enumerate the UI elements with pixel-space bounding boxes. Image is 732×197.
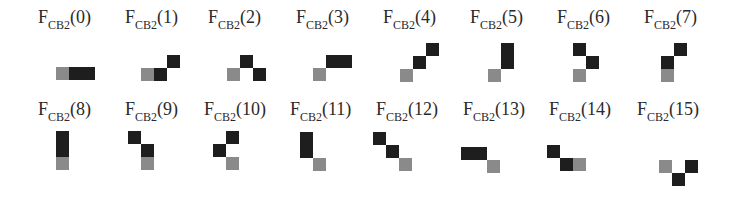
- dark-square: [300, 132, 313, 145]
- label-subscript: CB2: [300, 110, 322, 124]
- label-main: F: [557, 7, 567, 27]
- label-main: F: [383, 7, 393, 27]
- dark-square: [56, 131, 69, 144]
- dark-square: [213, 144, 226, 157]
- label-main: F: [125, 7, 135, 27]
- label-subscript: CB2: [135, 18, 157, 32]
- dark-square: [226, 131, 239, 144]
- label-argument: (1): [157, 7, 178, 27]
- label-subscript: CB2: [214, 110, 236, 124]
- label-main: F: [38, 99, 48, 119]
- figure-label: FCB2(11): [290, 100, 351, 118]
- label-subscript: CB2: [559, 110, 581, 124]
- dark-square: [674, 43, 687, 56]
- dark-square: [240, 55, 253, 68]
- figure-label: FCB2(12): [376, 100, 438, 118]
- figure-label: FCB2(9): [125, 100, 178, 118]
- label-main: F: [38, 7, 48, 27]
- label-main: F: [208, 7, 218, 27]
- label-argument: (13): [495, 99, 525, 119]
- gray-square: [141, 68, 154, 81]
- dark-square: [300, 145, 313, 158]
- gray-square: [56, 157, 69, 170]
- label-subscript: CB2: [306, 18, 328, 32]
- dark-square: [141, 144, 154, 157]
- label-subscript: CB2: [386, 110, 408, 124]
- figure-label: FCB2(8): [38, 100, 91, 118]
- dark-square: [672, 173, 685, 186]
- dark-square: [560, 158, 573, 171]
- label-main: F: [376, 99, 386, 119]
- dark-square: [501, 43, 514, 56]
- label-argument: (9): [157, 99, 178, 119]
- label-main: F: [637, 99, 647, 119]
- dark-square: [426, 43, 439, 56]
- dark-square: [69, 67, 82, 80]
- figure-label: FCB2(6): [557, 8, 610, 26]
- figure-label: FCB2(5): [470, 8, 523, 26]
- dark-square: [501, 56, 514, 69]
- gray-square: [313, 158, 326, 171]
- label-argument: (15): [669, 99, 699, 119]
- dark-square: [82, 67, 95, 80]
- label-main: F: [204, 99, 214, 119]
- gray-square: [227, 68, 240, 81]
- label-subscript: CB2: [48, 110, 70, 124]
- label-subscript: CB2: [393, 18, 415, 32]
- figure-label: FCB2(3): [296, 8, 349, 26]
- label-argument: (6): [589, 7, 610, 27]
- dark-square: [373, 132, 386, 145]
- label-argument: (0): [70, 7, 91, 27]
- gray-square: [659, 160, 672, 173]
- figure-label: FCB2(1): [125, 8, 178, 26]
- dark-square: [167, 55, 180, 68]
- figure-label: FCB2(7): [644, 8, 697, 26]
- gray-square: [226, 157, 239, 170]
- dark-square: [154, 68, 167, 81]
- gray-square: [400, 69, 413, 82]
- dark-square: [253, 68, 266, 81]
- gray-square: [573, 158, 586, 171]
- label-argument: (3): [328, 7, 349, 27]
- dark-square: [474, 147, 487, 160]
- gray-square: [573, 69, 586, 82]
- label-subscript: CB2: [654, 18, 676, 32]
- label-argument: (11): [322, 99, 351, 119]
- figure-label: FCB2(0): [38, 8, 91, 26]
- label-subscript: CB2: [48, 18, 70, 32]
- gray-square: [313, 68, 326, 81]
- label-main: F: [549, 99, 559, 119]
- label-argument: (8): [70, 99, 91, 119]
- figure-label: FCB2(13): [463, 100, 525, 118]
- gray-square: [141, 157, 154, 170]
- label-argument: (14): [581, 99, 611, 119]
- dark-square: [386, 145, 399, 158]
- figure-label: FCB2(14): [549, 100, 611, 118]
- label-subscript: CB2: [647, 110, 669, 124]
- label-argument: (7): [676, 7, 697, 27]
- dark-square: [326, 55, 339, 68]
- label-subscript: CB2: [218, 18, 240, 32]
- label-main: F: [296, 7, 306, 27]
- label-main: F: [463, 99, 473, 119]
- label-subscript: CB2: [473, 110, 495, 124]
- label-subscript: CB2: [135, 110, 157, 124]
- dark-square: [661, 56, 674, 69]
- label-main: F: [290, 99, 300, 119]
- label-subscript: CB2: [567, 18, 589, 32]
- dark-square: [339, 55, 352, 68]
- dark-square: [56, 144, 69, 157]
- label-subscript: CB2: [480, 18, 502, 32]
- label-argument: (2): [240, 7, 261, 27]
- label-argument: (10): [236, 99, 266, 119]
- dark-square: [547, 145, 560, 158]
- gray-square: [487, 160, 500, 173]
- figure-label: FCB2(4): [383, 8, 436, 26]
- dark-square: [685, 160, 698, 173]
- dark-square: [413, 56, 426, 69]
- label-argument: (12): [408, 99, 438, 119]
- gray-square: [56, 67, 69, 80]
- figure-label: FCB2(2): [208, 8, 261, 26]
- label-argument: (4): [415, 7, 436, 27]
- dark-square: [586, 56, 599, 69]
